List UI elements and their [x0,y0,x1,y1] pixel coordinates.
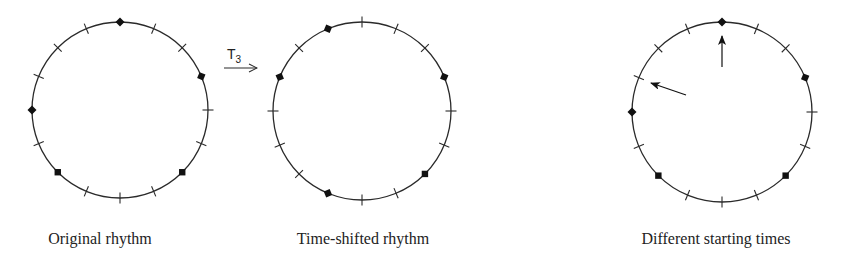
rhythm-circle-starting-times [627,17,817,207]
caption-starting-times: Different starting times [642,230,791,248]
start-arrow-icon [651,83,686,95]
rhythm-circles [27,17,817,208]
onset-marker-icon [440,73,448,81]
onset-marker-icon [782,172,788,178]
rhythm-circle-original [27,17,213,203]
rhythm-diagram [0,0,851,262]
caption-time-shifted: Time-shifted rhythm [297,230,429,248]
onset-marker-icon [324,25,332,33]
onset-marker-icon [422,171,428,177]
onset-marker-icon [179,169,185,175]
transform-subscript: 3 [236,54,242,65]
onset-marker-icon [627,107,636,116]
rhythm-circle-time-shifted [268,17,457,206]
onset-marker-icon [55,169,61,175]
caption-original: Original rhythm [48,230,152,248]
onset-marker-icon [655,172,661,178]
transform-name: T [227,46,236,62]
onset-marker-icon [324,189,332,197]
onset-marker-icon [197,72,205,80]
transform-label: T3 [227,46,241,65]
onset-marker-icon [717,17,726,26]
onset-marker-icon [801,73,809,81]
onset-marker-icon [27,105,36,114]
onset-marker-icon [276,73,284,81]
onset-marker-icon [115,17,124,26]
